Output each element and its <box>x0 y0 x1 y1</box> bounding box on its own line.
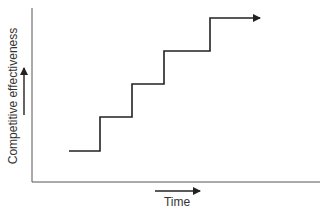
x-axis-label: Time <box>164 195 191 209</box>
step-line <box>69 18 260 151</box>
y-axis-label: Competitive effectiveness <box>6 28 20 165</box>
diagram: Time Competitive effectiveness <box>0 0 325 224</box>
